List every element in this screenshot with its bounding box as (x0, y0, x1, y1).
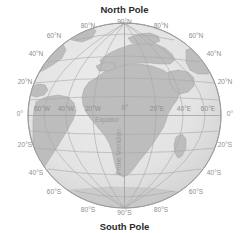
grid-label-90S: 90°S (117, 209, 132, 216)
lon-label-0-prime: 0° (122, 104, 129, 111)
grid-label-80S-west: 80°S (81, 206, 96, 213)
grid-label-90N: 90°N (117, 18, 132, 25)
lon-label-60E: 60°E (201, 105, 216, 112)
north-pole-label: North Pole (100, 4, 148, 15)
lat-label-right-40S: 40°S (207, 169, 222, 176)
equator-label: Equator (95, 116, 120, 124)
lat-label-right-0: 0° (227, 110, 234, 117)
lat-label-left-40N: 40°N (29, 50, 44, 57)
lat-label-right-40N: 40°N (207, 50, 222, 57)
lat-label-left-20S: 20°S (18, 141, 33, 148)
lon-label-20W: 20°W (85, 105, 102, 112)
lat-label-left-40S: 40°S (29, 169, 44, 176)
grid-label-80S-east: 80°S (154, 206, 169, 213)
lon-label-20E: 20°E (150, 105, 165, 112)
lon-label-40W: 40°W (58, 105, 75, 112)
lat-label-right-20S: 20°S (218, 141, 233, 148)
globe-diagram: North Pole South Pole 90°N 80°N 80°N 90°… (0, 0, 249, 233)
south-pole-label: South Pole (100, 221, 150, 232)
lat-label-left-60S: 60°S (47, 188, 62, 195)
grid-label-80N-east: 80°N (154, 22, 169, 29)
grid-label-80N-west: 80°N (81, 22, 96, 29)
prime-meridian-label: Prime Meridian (115, 129, 122, 175)
lat-label-left-60N: 60°N (47, 32, 62, 39)
lat-label-right-60N: 60°N (189, 32, 204, 39)
lon-label-40E: 40°E (177, 105, 192, 112)
lon-label-60W: 60°W (34, 105, 51, 112)
lat-label-right-60S: 60°S (189, 188, 204, 195)
lat-label-left-0: 0° (17, 110, 24, 117)
globe-svg: North Pole South Pole 90°N 80°N 80°N 90°… (0, 0, 249, 233)
lat-label-right-20N: 20°N (218, 78, 233, 85)
lat-label-left-20N: 20°N (18, 78, 33, 85)
